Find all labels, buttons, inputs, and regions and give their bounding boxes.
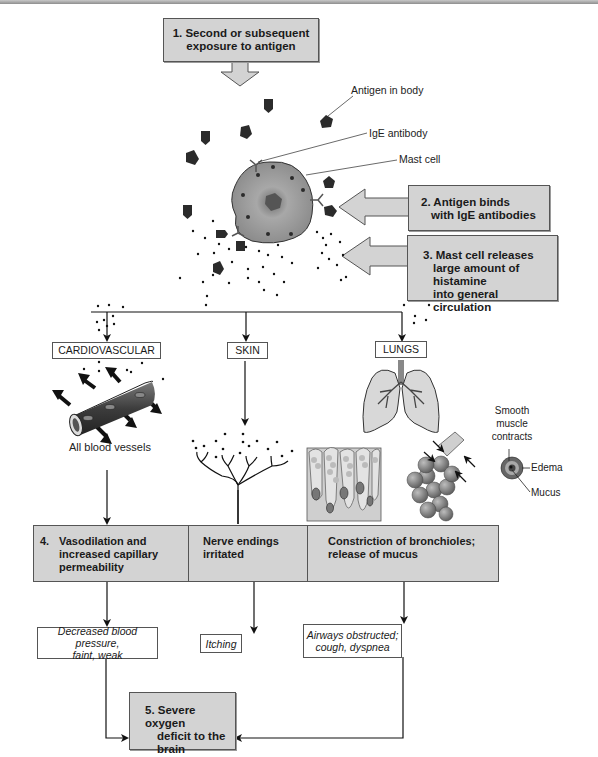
step2-line2: with IgE antibodies (421, 209, 536, 222)
alveoli-icon (407, 432, 475, 521)
step4-effects-box: 4. Vasodilation and increased capillary … (33, 525, 499, 582)
step2-box: 2. Antigen binds with IgE antibodies (408, 185, 550, 231)
step4-lungs-cell: Constriction of bronchioles; release of … (307, 526, 499, 581)
skin-label: SKIN (227, 342, 268, 359)
nerve-endings-icon (192, 433, 294, 524)
lungs-icon (363, 360, 439, 432)
mucus-label: Mucus (531, 487, 560, 498)
step1-box: 1. Second or subsequent exposure to anti… (163, 18, 319, 62)
lungs-label: LUNGS (375, 341, 427, 358)
ige-antibody-label: IgE antibody (369, 127, 427, 139)
mast-cell-icon (232, 162, 313, 243)
blood-vessel-icon (52, 361, 164, 444)
step1-line1: 1. Second or subsequent (173, 27, 310, 40)
all-blood-vessels-label: All blood vessels (69, 441, 151, 453)
step3-line3: into general circulation (423, 288, 557, 314)
step1-down-arrow (221, 61, 259, 86)
step1-line2: exposure to antigen (173, 40, 310, 53)
step5-box: 5. Severe oxygen deficit to the brain (129, 692, 236, 750)
step2-line1: 2. Antigen binds (421, 196, 536, 209)
bronchiole-cross-section-icon (501, 449, 530, 492)
step3-line1: 3. Mast cell releases (423, 249, 557, 262)
smooth-muscle-label: Smooth muscle contracts (491, 404, 533, 443)
step4-skin-cell: Nerve endings irritated (188, 526, 308, 581)
cardio-outcome-box: Decreased blood pressure, faint, weak (37, 627, 158, 659)
step2-left-arrow (339, 189, 408, 225)
step3-line2: large amount of histamine (423, 262, 557, 288)
step3-box: 3. Mast cell releases large amount of hi… (407, 235, 558, 301)
step4-cardio-cell: 4. Vasodilation and increased capillary … (34, 526, 188, 581)
cardiovascular-label: CARDIOVASCULAR (52, 342, 161, 359)
antigen-in-body-label: Antigen in body (351, 84, 423, 96)
mast-cell-label: Mast cell (399, 153, 440, 165)
edema-label: Edema (531, 462, 563, 473)
skin-outcome-box: Itching (200, 634, 242, 653)
lungs-outcome-box: Airways obstructed; cough, dyspnea (303, 624, 402, 658)
step3-left-arrow (342, 237, 407, 275)
goblet-cells-icon (307, 447, 381, 521)
step4-number: 4. (40, 535, 49, 548)
